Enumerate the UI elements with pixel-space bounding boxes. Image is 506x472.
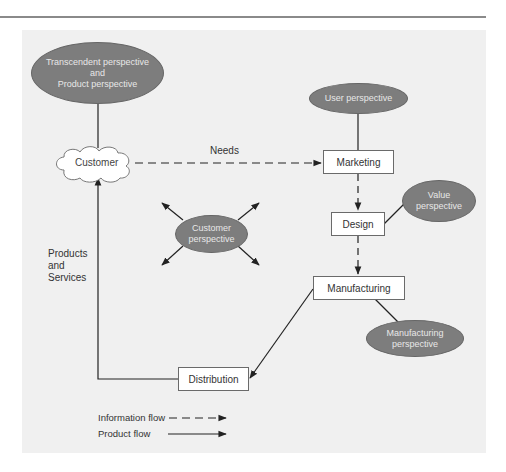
- legend-product-flow: Product flow: [98, 428, 150, 440]
- node-design: Design: [331, 212, 385, 236]
- node-marketing: Marketing: [323, 150, 394, 174]
- products-services-label: Products and Services: [48, 248, 87, 284]
- legend-information-flow: Information flow: [98, 412, 165, 424]
- node-customer: Customer: [75, 157, 118, 168]
- transcendent-product-perspective: Transcendent perspective and Product per…: [31, 42, 164, 104]
- value-perspective: Value perspective: [402, 180, 476, 222]
- node-distribution: Distribution: [178, 367, 249, 391]
- node-manufacturing: Manufacturing: [313, 276, 405, 300]
- manufacturing-perspective: Manufacturing perspective: [366, 320, 464, 357]
- needs-label: Needs: [210, 145, 239, 157]
- customer-perspective: Customer perspective: [175, 215, 248, 253]
- user-perspective: User perspective: [309, 83, 408, 114]
